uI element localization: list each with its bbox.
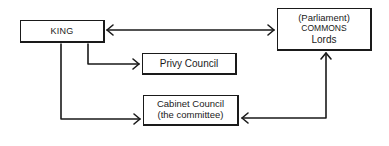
- node-privy-council: Privy Council: [142, 53, 237, 75]
- edge-cabinet-parliament: [242, 53, 331, 123]
- edge-king-cabinet: [61, 44, 140, 124]
- node-cabinet-council: Cabinet Council (the committee): [143, 95, 239, 126]
- edge-king-privy: [88, 44, 139, 69]
- cabinet-committee-label: (the committee): [158, 110, 224, 121]
- node-parliament: (Parliament) COMMONS Lords: [277, 8, 372, 51]
- node-king: KING: [20, 20, 105, 43]
- king-label: KING: [50, 26, 73, 36]
- privy-council-label: Privy Council: [160, 58, 218, 70]
- lords-label: Lords: [311, 34, 336, 46]
- edge-king-parliament: [107, 25, 274, 35]
- commons-label: COMMONS: [301, 24, 346, 34]
